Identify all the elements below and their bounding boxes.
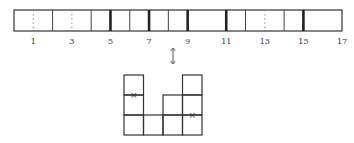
tick-label: 9 [185, 37, 190, 46]
tick-label: 15 [298, 37, 308, 46]
tick-label: 3 [69, 37, 74, 46]
tick-label: 11 [221, 37, 231, 46]
tick-label: 17 [337, 37, 347, 46]
tick-label: 13 [260, 37, 270, 46]
updown-arrow-icon [171, 48, 175, 64]
tick-label: 5 [108, 37, 113, 46]
cross-mark-icon: × [130, 90, 138, 100]
tick-label: 7 [147, 37, 152, 46]
box-cell [163, 115, 183, 135]
box-cell [144, 115, 164, 135]
box-diagram: ×× [124, 75, 202, 135]
strip-tick-labels: 1357911131517 [31, 37, 347, 46]
box-cell [124, 115, 144, 135]
box-cell [163, 95, 183, 115]
box-cell [183, 75, 203, 95]
strip-outline [14, 10, 342, 31]
tick-label: 1 [31, 37, 36, 46]
cross-mark-icon: × [188, 110, 196, 120]
top-strip [14, 10, 342, 31]
diagram-canvas: 1357911131517 ×× [0, 0, 354, 143]
